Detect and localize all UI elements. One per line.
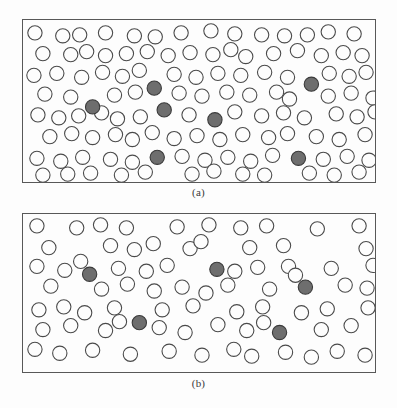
shaded-circle [208, 113, 222, 127]
open-circle [265, 148, 279, 162]
open-circle [133, 110, 147, 124]
open-circle [230, 305, 244, 319]
open-circle [314, 48, 328, 62]
open-circle [31, 108, 45, 122]
open-circle [98, 48, 112, 62]
open-circle [160, 258, 174, 272]
open-circle [36, 168, 50, 182]
open-circle [251, 260, 265, 274]
open-circle [195, 89, 209, 103]
open-circle [54, 154, 68, 168]
open-circle [309, 129, 323, 143]
open-circle [127, 29, 141, 43]
open-circle [221, 278, 235, 292]
open-circle [245, 349, 259, 363]
open-circle [243, 240, 257, 254]
open-circle [108, 127, 122, 141]
open-circle [103, 152, 117, 166]
open-circle [361, 301, 375, 315]
open-circle [185, 167, 199, 181]
open-circle [302, 166, 316, 180]
open-circle [257, 168, 271, 182]
open-circle [167, 67, 181, 81]
open-circle [112, 315, 126, 329]
open-circle [53, 346, 67, 360]
open-circle [199, 286, 213, 300]
shaded-circle [304, 77, 318, 91]
open-circle [138, 165, 152, 179]
open-circle [290, 44, 304, 58]
open-circle [119, 46, 133, 60]
open-circle [269, 85, 283, 99]
open-circle [38, 87, 52, 101]
open-circle [64, 47, 78, 61]
shaded-circle [147, 81, 161, 95]
open-circle [148, 30, 162, 44]
open-circle [327, 168, 341, 182]
open-circle [42, 240, 56, 254]
open-circle [211, 66, 225, 80]
open-circle [110, 112, 124, 126]
open-circle [368, 105, 375, 119]
shaded-circle [272, 325, 286, 339]
open-circle [256, 316, 270, 330]
panel-a [22, 19, 376, 183]
open-circle [70, 221, 84, 235]
open-circle [128, 85, 142, 99]
open-circle [98, 26, 112, 40]
open-circle [262, 282, 276, 296]
panel-b [22, 213, 376, 373]
open-circle [56, 29, 70, 43]
open-circle [195, 348, 209, 362]
open-circle [320, 302, 334, 316]
open-circle [147, 284, 161, 298]
open-circle [277, 29, 291, 43]
open-circle [28, 342, 42, 356]
open-circle [75, 70, 89, 84]
open-circle [44, 279, 58, 293]
open-circle [172, 86, 186, 100]
open-circle [167, 131, 181, 145]
open-circle [314, 322, 328, 336]
open-circle [227, 342, 241, 356]
open-circle [355, 48, 369, 62]
shaded-circle [291, 151, 305, 165]
open-circle [93, 218, 107, 232]
shaded-circle [150, 150, 164, 164]
open-circle [243, 88, 257, 102]
open-circle [194, 235, 208, 249]
open-circle [107, 88, 121, 102]
open-circle [300, 28, 314, 42]
caption-panel-b: (b) [0, 377, 397, 389]
open-circle [27, 68, 41, 82]
open-circle [36, 322, 50, 336]
open-circle [30, 219, 44, 233]
open-circle [30, 259, 44, 273]
open-circle [344, 318, 358, 332]
open-circle [344, 86, 358, 100]
open-circle [324, 261, 338, 275]
open-circle [276, 238, 290, 252]
open-circle [236, 127, 250, 141]
open-circle [145, 125, 159, 139]
open-circle [336, 45, 350, 59]
open-circle [182, 108, 196, 122]
open-circle [183, 45, 197, 59]
open-circle [244, 154, 258, 168]
open-circle [61, 167, 75, 181]
open-circle [330, 344, 344, 358]
open-circle [140, 44, 154, 58]
open-circle [146, 237, 160, 251]
open-circle [204, 24, 218, 38]
open-circle [43, 129, 57, 143]
open-circle [304, 350, 318, 364]
open-circle [259, 219, 273, 233]
open-circle [123, 347, 137, 361]
open-circle [178, 325, 192, 339]
open-circle [228, 27, 242, 41]
open-circle [115, 69, 129, 83]
open-circle [234, 221, 248, 235]
open-circle [83, 166, 97, 180]
open-circle [261, 130, 275, 144]
open-circle [127, 242, 141, 256]
